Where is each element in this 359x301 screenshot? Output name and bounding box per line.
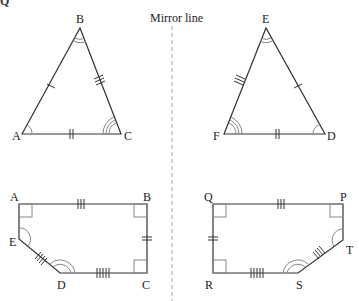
vertex-label-t: T xyxy=(346,244,353,256)
vertex-label-c: C xyxy=(124,130,132,142)
geometry-figure xyxy=(0,0,359,301)
diagram: Q xyxy=(0,0,359,301)
vertex-label-d: D xyxy=(57,279,66,291)
triangle-abc xyxy=(22,28,121,139)
vertex-label-a: A xyxy=(12,130,21,142)
vertex-label-e: E xyxy=(9,236,16,248)
vertex-label-f: F xyxy=(213,130,220,142)
vertex-label-a: A xyxy=(10,191,19,203)
vertex-label-e: E xyxy=(262,13,269,25)
vertex-label-c: C xyxy=(142,279,150,291)
pentagon-abcde xyxy=(19,199,152,278)
triangle-efd xyxy=(224,28,325,139)
vertex-label-b: B xyxy=(143,191,151,203)
pentagon-pqrst xyxy=(208,199,343,278)
vertex-label-p: P xyxy=(340,191,347,203)
vertex-label-s: S xyxy=(296,279,303,291)
vertex-label-q: Q xyxy=(204,191,213,203)
mirror-line-label: Mirror line xyxy=(150,12,203,24)
vertex-label-b: B xyxy=(76,13,84,25)
vertex-label-d: D xyxy=(327,130,336,142)
vertex-label-r: R xyxy=(205,279,213,291)
